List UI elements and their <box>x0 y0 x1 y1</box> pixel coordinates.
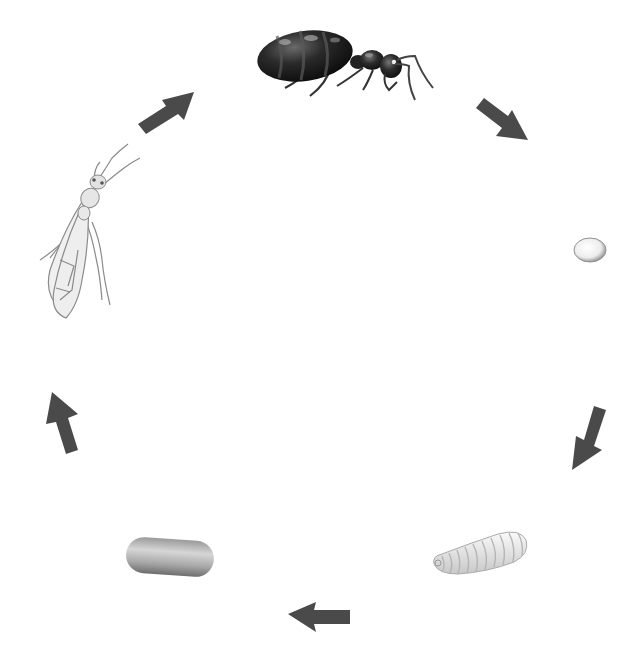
arrow-down-left-icon <box>570 404 608 472</box>
stage-winged-adult: Winged adult <box>20 140 145 320</box>
stage-larva: Larva <box>428 526 532 578</box>
arrow-up-icon <box>44 390 82 456</box>
stage-pupa: Pupa <box>124 536 216 578</box>
arrow-larva-to-pupa <box>286 600 352 634</box>
life-cycle-diagram: Queen ant <box>0 0 624 652</box>
queen-ant-icon <box>255 18 440 103</box>
arrow-left-icon <box>286 600 352 634</box>
winged-ant-icon <box>20 140 145 320</box>
arrow-down-right-icon <box>472 96 532 146</box>
stage-queen: Queen ant <box>255 18 440 103</box>
larva-icon <box>428 526 532 578</box>
arrow-up-right-icon <box>136 90 196 136</box>
arrow-egg-to-larva <box>570 404 608 472</box>
egg-icon <box>572 236 608 264</box>
stage-egg: Egg <box>572 236 608 264</box>
arrow-winged-adult-to-queen <box>136 90 196 136</box>
pupa-icon <box>124 536 216 578</box>
arrow-pupa-to-winged-adult <box>44 390 82 456</box>
arrow-queen-to-egg <box>472 96 532 146</box>
